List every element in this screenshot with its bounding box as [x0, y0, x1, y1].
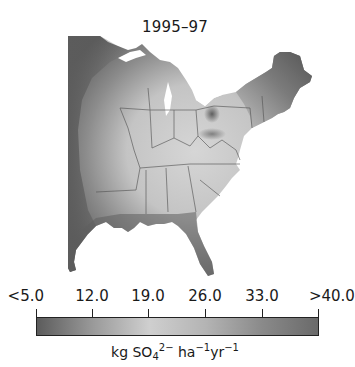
units-mid2: yr	[210, 344, 224, 360]
tick-label-2: 19.0	[131, 287, 164, 305]
tick-label-4: 33.0	[245, 287, 278, 305]
tick-label-5: >40.0	[309, 287, 355, 305]
units-mid: ha	[174, 344, 196, 360]
tick-label-0: <5.0	[8, 287, 44, 305]
units-sup1: 2−	[159, 342, 174, 353]
deposition-map	[0, 0, 350, 290]
colorbar-tick-labels: <5.0 12.0 19.0 26.0 33.0 >40.0	[0, 287, 350, 307]
tick-label-3: 26.0	[188, 287, 221, 305]
gulf-band	[82, 212, 214, 276]
colorbar	[36, 317, 319, 336]
units-sup2: −1	[195, 342, 210, 353]
tick-label-1: 12.0	[75, 287, 108, 305]
units-label: kg SO42− ha−1yr−1	[0, 342, 350, 362]
units-sup3: −1	[224, 342, 239, 353]
units-prefix: kg SO	[111, 344, 152, 360]
ohio-valley-hotspot-2	[198, 128, 226, 140]
units-sub: 4	[152, 351, 158, 362]
